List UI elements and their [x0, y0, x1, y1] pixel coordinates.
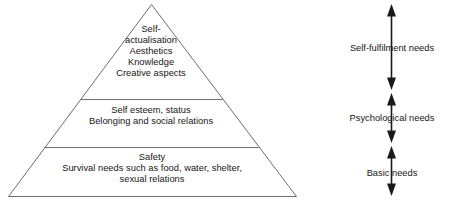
pyramid-tier-label-safety-survival: Safety Survival needs such as food, wate…	[16, 152, 288, 185]
diagram-canvas: Self- actualisation Aesthetics Knowledge…	[0, 0, 451, 203]
pyramid-tier-label-esteem-belonging: Self esteem, status Belonging and social…	[50, 105, 252, 127]
pyramid-tier-label-self-actualisation: Self- actualisation Aesthetics Knowledge…	[86, 24, 216, 79]
axis-label-basic: Basic needs	[327, 168, 451, 179]
axis-label-self-fulfilment: Self-fulfilment needs	[327, 43, 451, 54]
axis-label-psychological: Psychological needs	[327, 113, 451, 124]
